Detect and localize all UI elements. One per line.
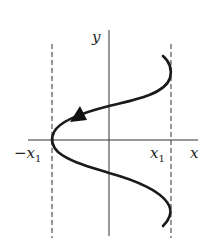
neg-x1-label-sub: 1 (35, 153, 41, 164)
neg-x1-label-main: −x (14, 144, 36, 162)
x1-label-sub: 1 (158, 153, 164, 164)
trajectory-curve (52, 56, 171, 226)
x-axis-label: x (190, 144, 199, 162)
neg-x1-label: −x1 (14, 144, 41, 164)
y-axis-label: y (91, 28, 101, 46)
diagram-canvas: y x −x1 x1 (0, 0, 213, 249)
x1-label: x1 (150, 144, 165, 164)
